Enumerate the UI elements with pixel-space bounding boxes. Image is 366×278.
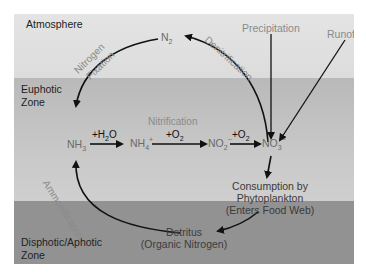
detritus-line2: (Organic Nitrogen)	[134, 238, 234, 251]
h2o-condition: +H2O	[92, 129, 117, 142]
nitrogen-cycle-diagram: Atmosphere Euphotic Zone Disphotic/Aphot…	[14, 14, 354, 264]
nh3-node: NH3	[67, 138, 86, 152]
n2-node: N2	[161, 31, 173, 45]
o2-condition-a: +O2	[166, 129, 184, 142]
o2-condition-b: +O2	[232, 129, 250, 142]
precipitation-label: Precipitation	[242, 22, 300, 35]
nh4-node: NH4+	[130, 136, 153, 151]
consumption-line3: (Enters Food Web)	[222, 204, 318, 217]
no3-node: NO3−	[262, 136, 286, 151]
no2-node: NO2−	[208, 136, 232, 151]
nitrification-label: Nitrification	[148, 115, 197, 128]
runoff-label: Runoff	[327, 28, 354, 41]
